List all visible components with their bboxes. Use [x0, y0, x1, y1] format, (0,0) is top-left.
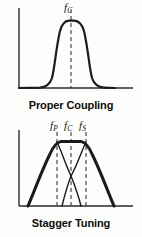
caption-proper-coupling: Proper Coupling: [0, 99, 142, 111]
caption-stagger-tuning: Stagger Tuning: [0, 217, 142, 229]
panel-proper-coupling: fC Proper Coupling: [0, 0, 142, 118]
resonance-curve-secondary: [62, 142, 86, 206]
figure-container: fC Proper Coupling fP fC fS: [0, 0, 142, 237]
chart-proper-coupling: [0, 0, 142, 100]
response-curve-proper-coupling: [19, 21, 115, 88]
panel-stagger-tuning: fP fC fS Stagger Tuning: [0, 118, 142, 237]
resonance-curve-primary: [57, 142, 81, 206]
chart-stagger-tuning: [0, 118, 142, 218]
